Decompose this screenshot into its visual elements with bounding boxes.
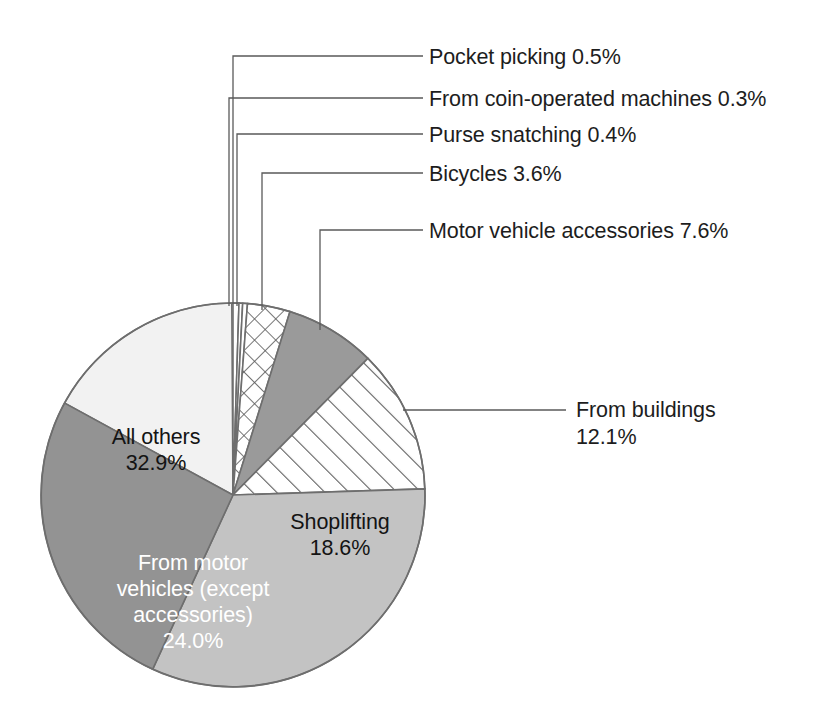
- slice-label-from-motor-vehicles-line1: From motor: [84, 550, 302, 576]
- slice-label-all-others: All others 32.9%: [61, 424, 251, 476]
- callout-label-coin-operated-machines: From coin-operated machines 0.3%: [429, 86, 766, 112]
- leader-line-purse-snatching: [237, 134, 423, 306]
- callout-label-from-buildings-line1: From buildings: [576, 397, 776, 424]
- slice-label-from-motor-vehicles-line2: vehicles (except: [84, 576, 302, 602]
- callout-label-pocket-picking: Pocket picking 0.5%: [429, 44, 621, 70]
- pie-chart-figure: Pocket picking 0.5% From coin-operated m…: [0, 0, 822, 715]
- callout-label-bicycles: Bicycles 3.6%: [429, 161, 562, 187]
- slice-label-from-motor-vehicles-line3: accessories): [84, 602, 302, 628]
- slice-label-from-motor-vehicles-line4: 24.0%: [84, 628, 302, 654]
- slice-label-from-motor-vehicles: From motor vehicles (except accessories)…: [84, 550, 302, 654]
- callout-label-from-buildings: From buildings 12.1%: [576, 397, 776, 451]
- leader-line-coin-operated-machines: [229, 98, 423, 306]
- callout-label-from-buildings-line2: 12.1%: [576, 424, 776, 451]
- callout-label-purse-snatching: Purse snatching 0.4%: [429, 122, 636, 148]
- slice-label-all-others-line2: 32.9%: [61, 450, 251, 476]
- slice-label-all-others-line1: All others: [61, 424, 251, 450]
- slice-label-shoplifting-line1: Shoplifting: [252, 509, 428, 535]
- callout-label-motor-vehicle-accessories: Motor vehicle accessories 7.6%: [429, 218, 728, 244]
- leader-line-motor-vehicle-accessories: [320, 230, 423, 330]
- leader-line-bicycles: [262, 173, 423, 310]
